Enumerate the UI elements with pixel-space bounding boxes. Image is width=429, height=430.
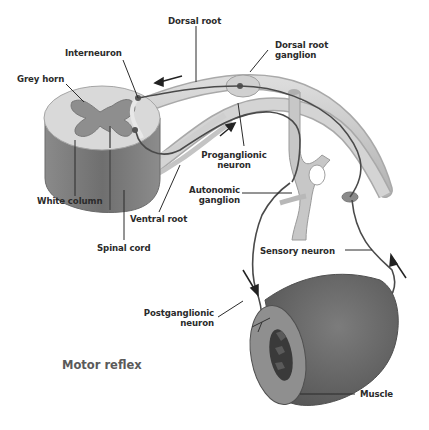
label-postganglionic-line1: Postganglionic (140, 308, 214, 318)
label-dorsal-root-ganglion-line2: ganglion (275, 50, 328, 60)
label-autonomic-line2: ganglion (180, 195, 240, 205)
label-white-column: White column (37, 196, 102, 206)
label-muscle: Muscle (360, 389, 393, 399)
label-proganglionic-line1: Proganglionic (200, 150, 268, 160)
label-interneuron: Interneuron (65, 48, 122, 58)
label-postganglionic-neuron: Postganglionic neuron (140, 308, 214, 328)
label-autonomic-line1: Autonomic (180, 185, 240, 195)
label-spinal-cord: Spinal cord (97, 243, 150, 253)
label-ventral-root: Ventral root (130, 214, 187, 224)
label-postganglionic-line2: neuron (140, 318, 214, 328)
spinal-cord (44, 86, 160, 213)
motor-reflex-diagram: Dorsal root Dorsal root ganglion Interne… (0, 0, 429, 430)
label-dorsal-root-ganglion-line1: Dorsal root (275, 40, 328, 50)
label-dorsal-root-ganglion: Dorsal root ganglion (275, 40, 328, 60)
label-proganglionic-neuron: Proganglionic neuron (200, 150, 268, 170)
label-dorsal-root: Dorsal root (168, 16, 221, 26)
label-grey-horn: Grey horn (17, 74, 64, 84)
label-sensory-neuron: Sensory neuron (260, 246, 335, 256)
diagram-title: Motor reflex (62, 358, 142, 372)
label-autonomic-ganglion: Autonomic ganglion (180, 185, 240, 205)
label-proganglionic-line2: neuron (200, 160, 268, 170)
